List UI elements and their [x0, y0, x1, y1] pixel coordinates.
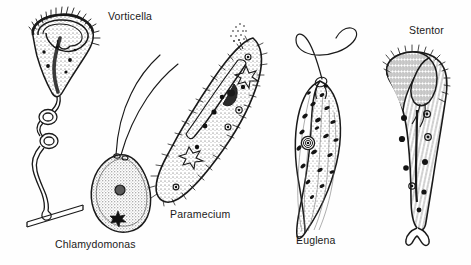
stentor-holdfast [406, 228, 429, 245]
illustration-canvas [0, 0, 471, 265]
paramecium-trichocyst-spray [230, 23, 247, 42]
vorticella-drawing [27, 7, 100, 227]
euglena-flagellum [296, 28, 357, 79]
label-vorticella: Vorticella [108, 11, 152, 22]
paramecium-macronucleus [227, 90, 235, 97]
euglena-nucleus [301, 136, 314, 149]
euglena-drawing [295, 28, 356, 239]
chlamydomonas-nucleus [115, 185, 125, 195]
euglena-eyespot [324, 84, 328, 88]
paramecium-drawing [148, 23, 267, 206]
label-stentor: Stentor [409, 25, 444, 36]
vorticella-stalk [32, 96, 60, 211]
substrate-lines [27, 205, 83, 227]
protozoa-illustration-figure: Vorticella Stentor Paramecium Chlamydomo… [0, 0, 471, 265]
label-euglena: Euglena [296, 235, 336, 246]
stentor-macronucleus-chain [416, 110, 417, 202]
stentor-drawing [383, 45, 450, 245]
chlamydomonas-drawing [91, 55, 178, 232]
label-paramecium: Paramecium [170, 209, 230, 220]
chlamydomonas-flagella [116, 55, 178, 155]
label-chlamydomonas: Chlamydomonas [55, 239, 136, 250]
